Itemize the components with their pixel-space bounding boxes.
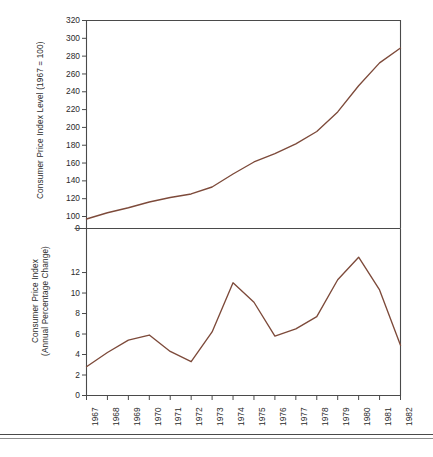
x-tick-label: 1976	[279, 407, 287, 426]
x-tick-label: 1980	[363, 407, 371, 426]
bottom-chart-plot-area	[0, 0, 433, 457]
bottom-chart-frame	[87, 229, 401, 396]
x-tick-label: 1981	[384, 407, 392, 426]
x-tick-label: 1979	[342, 407, 350, 426]
x-tick-label: 1973	[216, 407, 224, 426]
x-tick-label: 1970	[154, 407, 162, 426]
x-tick-label: 1978	[321, 407, 329, 426]
x-tick-label: 1971	[174, 407, 182, 426]
bottom-chart-data-line	[87, 257, 401, 367]
x-tick-label: 1974	[237, 407, 245, 426]
x-tick-label: 1972	[195, 407, 203, 426]
x-tick-label: 1969	[133, 407, 141, 426]
x-tick-label: 1975	[258, 407, 266, 426]
footer-divider-line-secondary	[0, 438, 433, 439]
footer-divider-line	[0, 434, 433, 435]
x-tick-label: 1968	[112, 407, 120, 426]
figure-container: Consumer Price Index Level (1967 = 100) …	[0, 0, 433, 457]
x-tick-label: 1977	[300, 407, 308, 426]
x-tick-label: 1967	[91, 407, 99, 426]
x-tick-label: 1982	[405, 407, 413, 426]
